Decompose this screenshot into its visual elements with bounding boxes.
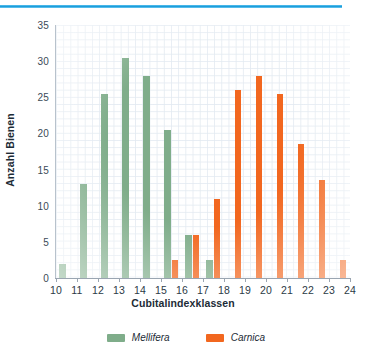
x-tick-label: 12 — [92, 284, 104, 296]
bar-mellifera-13 — [122, 58, 129, 278]
bar-carnica-21 — [298, 144, 305, 278]
x-tick-mark — [182, 278, 183, 282]
legend-item-carnica[interactable]: Carnica — [206, 332, 265, 343]
chart-legend: MelliferaCarnica — [0, 332, 366, 343]
y-tick-label: 5 — [43, 236, 49, 247]
x-tick-label: 20 — [260, 284, 272, 296]
x-tick-label: 15 — [155, 284, 167, 296]
x-tick-label: 16 — [176, 284, 188, 296]
x-tick-mark — [350, 278, 351, 282]
bar-carnica-18 — [235, 90, 242, 278]
bar-carnica-17 — [214, 199, 221, 279]
x-tick-label: 17 — [197, 284, 209, 296]
y-axis-title: Anzahl Bienen — [4, 113, 16, 187]
bar-carnica-19 — [256, 76, 263, 278]
x-tick-label: 14 — [134, 284, 146, 296]
y-tick-label: 0 — [43, 273, 49, 284]
legend-item-label: Carnica — [231, 332, 265, 343]
bar-mellifera-10 — [59, 264, 66, 278]
x-tick-label: 18 — [218, 284, 230, 296]
x-tick-mark — [56, 278, 57, 282]
bar-carnica-16 — [193, 235, 200, 278]
bar-mellifera-16 — [185, 235, 192, 278]
legend-item-mellifera[interactable]: Mellifera — [107, 332, 170, 343]
x-tick-mark — [77, 278, 78, 282]
x-tick-mark — [329, 278, 330, 282]
y-tick-label: 20 — [37, 128, 49, 139]
x-tick-label: 10 — [50, 284, 62, 296]
x-tick-label: 13 — [113, 284, 125, 296]
bar-mellifera-12 — [101, 94, 108, 278]
x-tick-mark — [308, 278, 309, 282]
y-axis-line — [55, 25, 56, 278]
bar-carnica-23 — [340, 260, 347, 278]
x-tick-label: 22 — [302, 284, 314, 296]
y-tick-label: 35 — [37, 20, 49, 31]
x-tick-mark — [119, 278, 120, 282]
bar-mellifera-14 — [143, 76, 150, 278]
bar-mellifera-11 — [80, 184, 87, 278]
x-tick-label: 21 — [281, 284, 293, 296]
top-rule-divider — [0, 5, 342, 8]
x-tick-mark — [140, 278, 141, 282]
y-tick-label: 15 — [37, 164, 49, 175]
bar-carnica-15 — [172, 260, 179, 278]
y-tick-label: 30 — [37, 56, 49, 67]
x-tick-label: 11 — [71, 284, 82, 296]
x-tick-mark — [224, 278, 225, 282]
chart-figure: Anzahl Bienen 05101520253035 10111213141… — [0, 0, 366, 360]
y-tick-label: 25 — [37, 92, 49, 103]
plot-area: 05101520253035 1011121314151617181920212… — [56, 25, 350, 278]
x-tick-mark — [287, 278, 288, 282]
x-tick-label: 23 — [323, 284, 335, 296]
legend-swatch-icon — [206, 334, 224, 342]
x-tick-mark — [161, 278, 162, 282]
bar-carnica-20 — [277, 94, 284, 278]
y-tick-label: 10 — [37, 200, 49, 211]
x-tick-mark — [203, 278, 204, 282]
x-tick-mark — [266, 278, 267, 282]
bar-mellifera-15 — [164, 130, 171, 278]
x-tick-label: 19 — [239, 284, 251, 296]
x-axis-title: Cubitalindexklassen — [0, 297, 366, 309]
x-tick-label: 24 — [344, 284, 356, 296]
x-tick-mark — [98, 278, 99, 282]
bar-mellifera-17 — [206, 260, 213, 278]
legend-swatch-icon — [107, 334, 125, 342]
bar-carnica-22 — [319, 180, 326, 278]
x-tick-mark — [245, 278, 246, 282]
legend-item-label: Mellifera — [132, 332, 170, 343]
